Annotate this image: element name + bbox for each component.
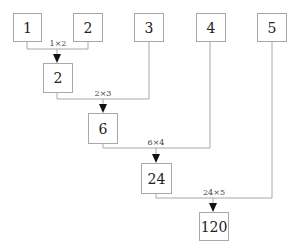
- result-box-6: 6: [88, 113, 118, 144]
- arrow-head-icon: [152, 154, 160, 163]
- operation-label: 24×5: [203, 188, 225, 197]
- result-box-24: 24: [141, 163, 172, 194]
- input-box-1: 1: [13, 13, 42, 42]
- arrow-head-icon: [209, 203, 217, 212]
- operation-label: 6×4: [148, 138, 165, 147]
- operation-label: 1×2: [50, 39, 67, 48]
- input-box-4: 4: [196, 13, 226, 42]
- result-box-2: 2: [43, 63, 73, 93]
- input-box-3: 3: [134, 13, 164, 42]
- result-box-120: 120: [199, 212, 229, 241]
- input-box-5: 5: [257, 13, 287, 42]
- arrow-head-icon: [99, 104, 107, 113]
- arrow-head-icon: [53, 54, 61, 63]
- operation-label: 2×3: [95, 89, 112, 98]
- input-box-2: 2: [73, 13, 103, 42]
